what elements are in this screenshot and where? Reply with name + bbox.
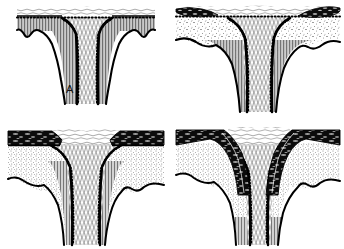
- panel-c-dark-band-right: [110, 131, 164, 145]
- panel-b: B: [172, 0, 344, 124]
- panel-d: D: [172, 125, 344, 249]
- panel-b-drawing: [172, 0, 344, 124]
- panel-a-drawing: [0, 0, 172, 124]
- panel-d-drawing: [172, 125, 344, 249]
- figure-container: A B: [0, 0, 344, 249]
- panel-c-drawing: [0, 125, 172, 249]
- panel-d-throat-fill: [244, 151, 274, 245]
- panel-c: C: [0, 125, 172, 249]
- panel-label-a: A: [66, 84, 74, 95]
- panel-a: A: [0, 0, 172, 124]
- panel-c-dark-band-left: [8, 131, 62, 145]
